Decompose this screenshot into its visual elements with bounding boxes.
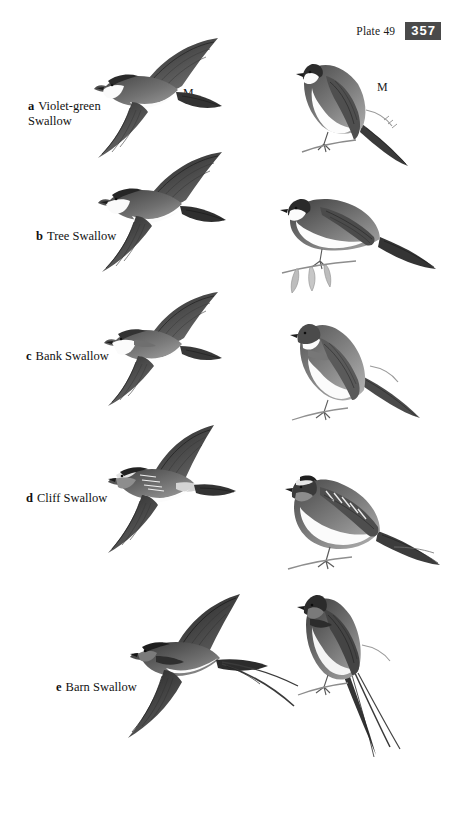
plate-label: Plate 49: [356, 25, 395, 37]
species-letter-c: c: [26, 349, 32, 363]
species-letter-d: d: [26, 491, 33, 505]
illustration-barn-swallow-perched: [296, 575, 451, 770]
species-letter-a: a: [28, 99, 34, 113]
species-name-d: Cliff Swallow: [37, 491, 107, 505]
species-letter-b: b: [36, 229, 43, 243]
illustration-violet-green-swallow-flight: [86, 34, 236, 164]
illustration-violet-green-swallow-perched: [292, 36, 442, 181]
species-letter-e: e: [56, 680, 62, 694]
illustration-barn-swallow-flight: [122, 588, 302, 768]
illustration-bank-swallow-perched: [288, 300, 443, 435]
illustration-tree-swallow-perched: [276, 175, 441, 310]
illustration-bank-swallow-flight: [96, 290, 241, 415]
illustration-cliff-swallow-flight: [98, 425, 250, 565]
plate-page: Plate 49 357 aViolet-green Swallow bTree…: [0, 0, 463, 816]
illustration-tree-swallow-flight: [92, 150, 242, 280]
